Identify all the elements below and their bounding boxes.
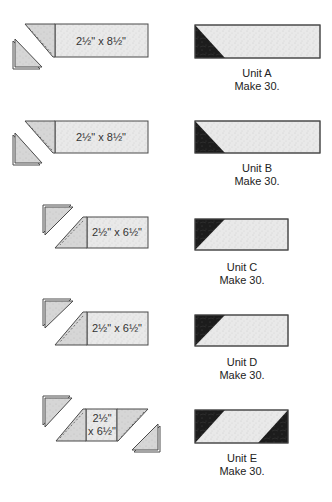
corner-triangle-pair [13,133,42,165]
make-quantity-label: Make 30. [234,80,279,92]
quilt-unit-diagram: 2½" x 8½" Unit A Make 30. 2½" x 8½" Unit… [0,0,332,502]
row-e-cutting-diagram: 2½" x 6½" [43,396,160,452]
make-quantity-label: Make 30. [219,465,264,477]
cut-size-label-line2: x 6½" [88,425,116,437]
corner-triangle-pair-top-left [43,396,72,427]
corner-triangle-pair-bottom-right [132,424,160,452]
unit-e-result: Unit E Make 30. [195,410,288,477]
row-d-cutting-diagram: 2½" x 6½" [43,299,148,345]
corner-triangle-pair [43,299,73,328]
unit-b-result: Unit B Make 30. [195,121,320,187]
unit-label: Unit D [227,356,258,368]
row-c-cutting-diagram: 2½" x 6½" [43,205,148,248]
corner-triangle-pair [13,39,42,69]
make-quantity-label: Make 30. [219,369,264,381]
unit-label: Unit E [227,452,257,464]
make-quantity-label: Make 30. [234,175,279,187]
unit-d-result: Unit D Make 30. [195,315,288,381]
cut-size-label: 2½" x 6½" [92,322,142,334]
cut-size-label-line1: 2½" [92,412,111,424]
corner-triangle-pair [43,205,73,235]
row-a-cutting-diagram: 2½" x 8½" [13,24,148,69]
cut-size-label: 2½" x 6½" [92,226,142,238]
unit-label: Unit C [227,261,258,273]
row-b-cutting-diagram: 2½" x 8½" [13,121,148,165]
unit-a-result: Unit A Make 30. [195,25,320,92]
cut-size-label: 2½" x 8½" [76,35,126,47]
unit-c-result: Unit C Make 30. [195,219,288,286]
make-quantity-label: Make 30. [219,274,264,286]
cut-size-label: 2½" x 8½" [76,131,126,143]
unit-label: Unit B [242,162,272,174]
unit-label: Unit A [242,67,272,79]
